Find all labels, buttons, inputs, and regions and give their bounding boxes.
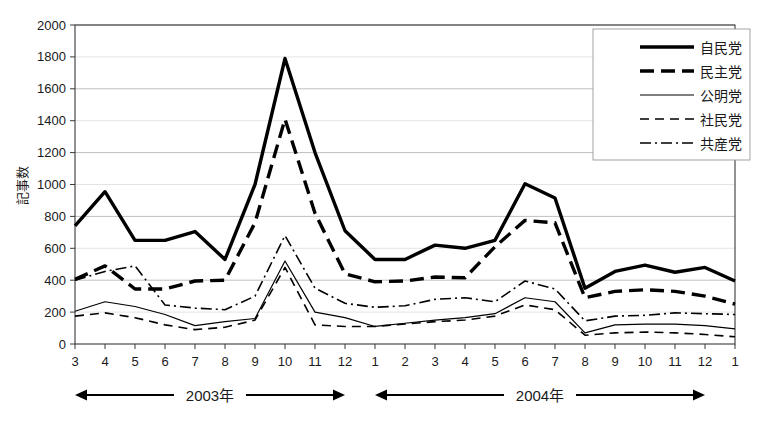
y-tick-label: 200	[44, 305, 66, 320]
x-tick-label: 6	[161, 354, 168, 369]
x-tick-label: 5	[491, 354, 498, 369]
year-span-label: 2004年	[516, 387, 564, 404]
x-tick-label: 8	[221, 354, 228, 369]
legend-label-社民党: 社民党	[700, 112, 742, 128]
y-axis-title-label: 記事数	[15, 166, 30, 205]
x-tick-label: 1	[731, 354, 738, 369]
x-tick-label: 3	[431, 354, 438, 369]
line-chart: 0200400600800100012001400160018002000 34…	[0, 0, 767, 439]
x-tick-label: 12	[698, 354, 712, 369]
x-tick-label: 1	[371, 354, 378, 369]
x-tick-label: 11	[668, 354, 682, 369]
y-tick-label: 400	[44, 273, 66, 288]
y-tick-label: 1600	[37, 81, 66, 96]
x-tick-label: 2	[401, 354, 408, 369]
x-tick-label: 9	[251, 354, 258, 369]
x-tick-label: 10	[278, 354, 292, 369]
y-tick-label: 1800	[37, 49, 66, 64]
legend-label-民主党: 民主党	[700, 64, 742, 80]
x-tick-label: 12	[338, 354, 352, 369]
y-axis-title: 記事数	[15, 166, 30, 205]
x-tick-label: 4	[461, 354, 468, 369]
x-tick-label: 5	[131, 354, 138, 369]
y-tick-label: 1400	[37, 113, 66, 128]
y-tick-label: 1000	[37, 177, 66, 192]
chart-container: 0200400600800100012001400160018002000 34…	[0, 0, 767, 439]
x-tick-label: 6	[521, 354, 528, 369]
x-tick-label: 9	[611, 354, 618, 369]
x-tick-label: 8	[581, 354, 588, 369]
x-tick-label: 7	[551, 354, 558, 369]
legend-label-公明党: 公明党	[700, 88, 742, 104]
x-tick-label: 4	[101, 354, 108, 369]
legend-label-自民党: 自民党	[700, 40, 742, 56]
y-tick-label: 1200	[37, 145, 66, 160]
x-tick-label: 11	[308, 354, 322, 369]
y-tick-label: 600	[44, 241, 66, 256]
y-tick-label: 0	[59, 337, 66, 352]
x-tick-label: 7	[191, 354, 198, 369]
legend-label-共産党: 共産党	[700, 136, 742, 152]
year-span-label: 2003年	[186, 387, 234, 404]
y-tick-label: 2000	[37, 18, 66, 33]
x-tick-label: 3	[71, 354, 78, 369]
y-tick-label: 800	[44, 209, 66, 224]
chart-legend: 自民党民主党公明党社民党共産党	[593, 29, 750, 160]
x-tick-label: 10	[638, 354, 652, 369]
